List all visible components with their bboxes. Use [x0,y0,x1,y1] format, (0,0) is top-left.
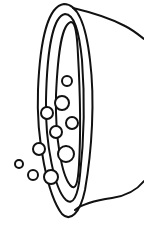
bubble-icon [33,143,45,155]
bubble-icon [41,107,53,119]
bubble-icon [62,76,72,86]
bowl-illustration [0,0,144,226]
bubble-icon [44,170,58,184]
bowl-back-outline [73,8,144,39]
bubble-icon [28,170,38,180]
bubble-icon [58,146,74,162]
bubble-icon [55,96,69,110]
bubble-icon [50,126,62,138]
bubble-icon [66,117,78,129]
bowl-icon [0,0,144,226]
bubble-icon [15,160,23,168]
